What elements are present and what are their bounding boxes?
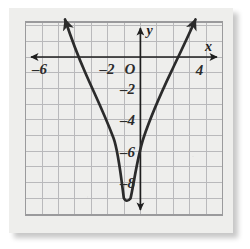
x-tick-label-4: 4 bbox=[195, 62, 204, 78]
x-axis-label: x bbox=[204, 39, 212, 54]
figure-page: –6 –2 4 O –2 –4 –6 –8 x y bbox=[0, 0, 250, 249]
y-axis-label: y bbox=[144, 23, 153, 38]
y-tick-label--4: –4 bbox=[119, 112, 136, 128]
paper-card: –6 –2 4 O –2 –4 –6 –8 x y bbox=[9, 8, 233, 233]
x-tick-label--2: –2 bbox=[99, 61, 116, 77]
y-tick-label--2: –2 bbox=[119, 81, 136, 97]
origin-label: O bbox=[125, 61, 136, 77]
coordinate-graph: –6 –2 4 O –2 –4 –6 –8 x y bbox=[9, 8, 233, 233]
y-tick-label--6: –6 bbox=[119, 144, 136, 160]
y-tick-label--8: –8 bbox=[119, 175, 136, 191]
parabola-curve bbox=[65, 20, 196, 201]
x-tick-label--6: –6 bbox=[31, 61, 48, 77]
